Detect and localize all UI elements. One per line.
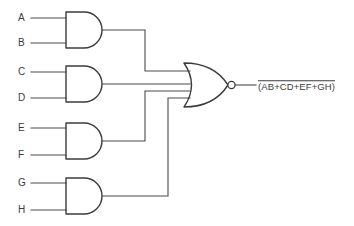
output-expression-text: (AB+CD+EF+GH) (258, 80, 335, 92)
input-label-f: F (18, 150, 24, 160)
nor-gate-body (184, 63, 228, 107)
and-gate-4 (66, 178, 102, 214)
and-gate-3 (66, 123, 102, 159)
nor-gate (184, 63, 235, 107)
and-gate-1-body (66, 12, 102, 48)
input-label-d: D (18, 93, 25, 103)
input-label-e: E (18, 123, 25, 133)
wire-and1-to-nor (102, 30, 190, 71)
and-gate-3-body (66, 123, 102, 159)
input-label-g: G (18, 178, 26, 188)
input-label-h: H (18, 205, 25, 215)
and-gate-1 (66, 12, 102, 48)
input-label-a: A (18, 13, 25, 23)
input-label-c: C (18, 67, 25, 77)
input-wires (31, 18, 66, 210)
output-expression-label: (AB+CD+EF+GH) (258, 80, 335, 92)
and-gate-4-body (66, 178, 102, 214)
circuit-schematic-svg (0, 0, 354, 226)
nor-gate-inversion-bubble (228, 81, 235, 88)
input-label-b: B (18, 38, 25, 48)
interconnect-wires (102, 30, 190, 196)
wire-and4-to-nor (102, 98, 190, 196)
and-gate-2 (66, 66, 102, 102)
logic-circuit-diagram: A B C D E F G H (AB+CD+EF+GH) (0, 0, 354, 226)
and-gate-2-body (66, 66, 102, 102)
